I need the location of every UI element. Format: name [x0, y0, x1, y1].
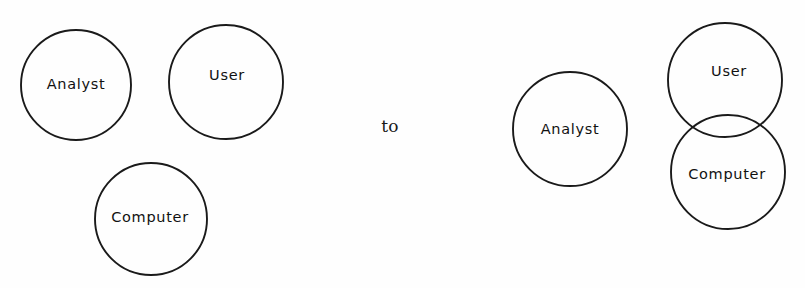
- before-state-group: Analyst User Computer: [21, 25, 283, 275]
- user-label-after: User: [711, 63, 747, 79]
- node-computer-after[interactable]: Computer: [671, 115, 785, 229]
- computer-label-after: Computer: [688, 166, 766, 182]
- node-user-before[interactable]: User: [169, 25, 283, 139]
- node-analyst-after[interactable]: Analyst: [513, 72, 627, 186]
- computer-label-before: Computer: [111, 209, 189, 225]
- user-label-before: User: [209, 67, 245, 83]
- analyst-label-after: Analyst: [541, 121, 600, 137]
- transition-connector-label: to: [381, 116, 398, 136]
- node-user-after[interactable]: User: [668, 23, 782, 137]
- diagram-canvas: Analyst User Computer to Analyst User: [0, 0, 805, 288]
- venn-transition-diagram: Analyst User Computer to Analyst User: [0, 0, 805, 288]
- node-analyst-before[interactable]: Analyst: [21, 30, 131, 140]
- after-state-group: Analyst User Computer: [513, 23, 785, 229]
- user-circle-after[interactable]: [668, 23, 782, 137]
- node-computer-before[interactable]: Computer: [95, 163, 207, 275]
- analyst-label-before: Analyst: [47, 76, 106, 92]
